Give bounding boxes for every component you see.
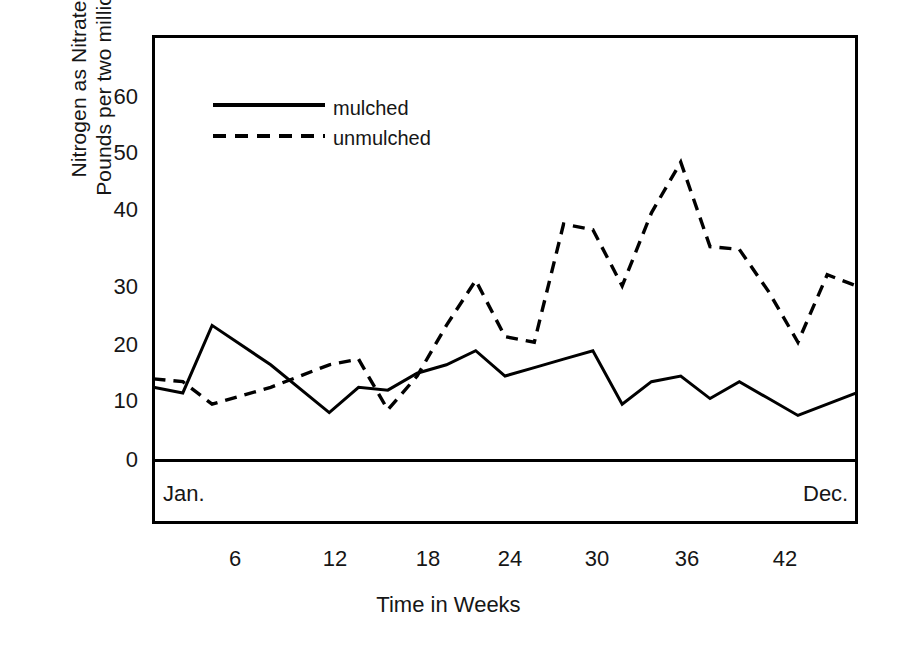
plot-frame <box>154 37 857 523</box>
series-line-mulched <box>154 325 857 415</box>
x-axis-title: Time in Weeks <box>0 592 897 618</box>
x-tick-24: 24 <box>498 546 522 572</box>
chart-figure: Nitrogen as Nitrate Pounds per two milli… <box>0 0 897 654</box>
x-tick-30: 30 <box>585 546 609 572</box>
x-tick-12: 12 <box>323 546 347 572</box>
legend-label-mulched: mulched <box>333 97 409 120</box>
x-tick-42: 42 <box>773 546 797 572</box>
band-label-start: Jan. <box>163 481 205 507</box>
x-tick-36: 36 <box>675 546 699 572</box>
x-axis-tick-labels: 6 12 18 24 30 36 42 <box>0 546 897 578</box>
series-line-unmulched <box>154 162 857 410</box>
band-label-end: Dec. <box>803 481 848 507</box>
x-tick-6: 6 <box>229 546 241 572</box>
x-tick-18: 18 <box>416 546 440 572</box>
legend-label-unmulched: unmulched <box>333 127 431 150</box>
